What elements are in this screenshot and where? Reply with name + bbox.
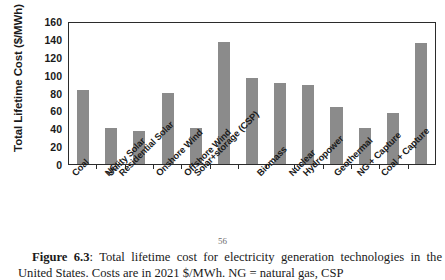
bar-slot	[69, 23, 97, 164]
y-axis-title: Total Lifetime Cost ($/MWh)	[12, 0, 24, 158]
y-tick-label: 120	[26, 53, 62, 63]
y-tick-label: 40	[26, 124, 62, 134]
y-axis-tick-labels: 160140120100806040200	[26, 17, 62, 165]
bar-series	[69, 23, 435, 164]
bar-slot	[238, 23, 266, 164]
y-tick-label: 140	[26, 35, 62, 45]
y-tick-label: 80	[26, 89, 62, 99]
caption-separator: :	[90, 250, 100, 264]
bar[interactable]	[77, 90, 89, 164]
figure-6-3: Total Lifetime Cost ($/MWh) 160140120100…	[0, 0, 445, 280]
caption-label: Figure 6.3	[32, 250, 90, 264]
page-number: 56	[0, 236, 445, 246]
bar-slot	[97, 23, 125, 164]
y-tick-label: 60	[26, 106, 62, 116]
y-tick-label: 20	[26, 142, 62, 152]
figure-caption: Figure 6.3: Total lifetime cost for elec…	[18, 250, 442, 280]
bar-slot	[294, 23, 322, 164]
bar-slot	[266, 23, 294, 164]
bar-chart: Total Lifetime Cost ($/MWh) 160140120100…	[0, 2, 445, 248]
y-tick-label: 100	[26, 71, 62, 81]
y-tick-label: 160	[26, 17, 62, 27]
y-tick-label: 0	[26, 160, 62, 170]
